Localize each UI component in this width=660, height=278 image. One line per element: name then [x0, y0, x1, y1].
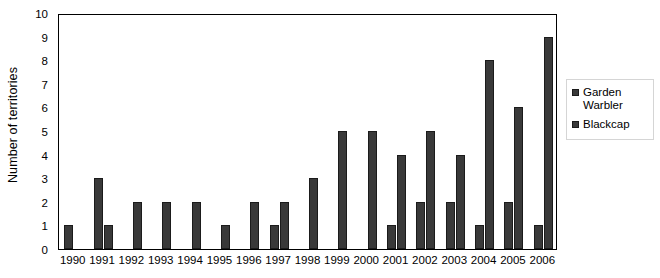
bar-group — [235, 15, 264, 249]
bar — [504, 202, 513, 249]
bar — [446, 202, 455, 249]
bar-group — [264, 15, 293, 249]
y-axis-tick-label: 2 — [42, 197, 48, 208]
x-axis-tick-label: 1994 — [177, 253, 203, 267]
bar-group — [176, 15, 205, 249]
bar-group — [294, 15, 323, 249]
y-axis-tick-labels: 012345678910 — [24, 14, 54, 250]
legend-label: Garden Warbler — [583, 86, 623, 112]
y-axis-tick-label: 4 — [42, 150, 48, 161]
bar — [416, 202, 425, 249]
x-axis-tick-label: 2000 — [353, 253, 379, 267]
bar-group — [529, 15, 558, 249]
bar — [397, 155, 406, 249]
legend-label: Blackcap — [583, 118, 630, 131]
bar — [534, 225, 543, 249]
x-axis-tick-label: 1991 — [89, 253, 115, 267]
x-axis-tick-label: 2002 — [412, 253, 438, 267]
bar-group — [118, 15, 147, 249]
bar-group — [59, 15, 88, 249]
bar — [270, 225, 279, 249]
bar — [162, 202, 171, 249]
plot-bars-container — [59, 15, 556, 249]
bar — [94, 178, 103, 249]
y-axis-tick-label: 7 — [42, 79, 48, 90]
bar-group — [88, 15, 117, 249]
bar — [64, 225, 73, 249]
x-axis-tick-label: 2004 — [471, 253, 497, 267]
legend-entry: Garden Warbler — [572, 86, 649, 112]
bar-group — [353, 15, 382, 249]
x-axis-tick-label: 1999 — [324, 253, 350, 267]
x-axis-tick-labels: 1990199119921993199419951996199719981999… — [58, 253, 557, 273]
y-axis-tick-label: 1 — [42, 221, 48, 232]
bar-group — [147, 15, 176, 249]
y-axis-tick-label: 3 — [42, 174, 48, 185]
x-axis-tick-label: 1993 — [148, 253, 174, 267]
y-axis-tick-label: 0 — [42, 245, 48, 256]
bar-group — [411, 15, 440, 249]
bar-chart: Number of territories 012345678910 19901… — [0, 0, 660, 278]
x-axis-tick-label: 2005 — [500, 253, 526, 267]
bar — [368, 131, 377, 249]
bar-group — [470, 15, 499, 249]
y-axis-title: Number of territories — [0, 0, 26, 250]
bar — [456, 155, 465, 249]
y-axis-tick-label: 8 — [42, 56, 48, 67]
chart-legend: Garden WarblerBlackcap — [566, 79, 654, 140]
y-axis-tick-label: 9 — [42, 32, 48, 43]
x-axis-tick-label: 2003 — [441, 253, 467, 267]
x-axis-tick-label: 2006 — [530, 253, 556, 267]
bar — [475, 225, 484, 249]
y-axis-tick-label: 6 — [42, 103, 48, 114]
y-axis-tick-label: 10 — [35, 9, 48, 20]
y-axis-tick-label: 5 — [42, 127, 48, 138]
bar — [514, 107, 523, 249]
bar-group — [382, 15, 411, 249]
bar — [133, 202, 142, 249]
bar — [221, 225, 230, 249]
bar — [485, 60, 494, 249]
x-axis-tick-label: 1992 — [119, 253, 145, 267]
bar-group — [206, 15, 235, 249]
bar — [104, 225, 113, 249]
bar — [192, 202, 201, 249]
x-axis-tick-label: 1998 — [295, 253, 321, 267]
legend-entry: Blackcap — [572, 118, 649, 131]
legend-swatch-icon — [572, 89, 579, 96]
y-axis-title-text: Number of territories — [6, 67, 20, 183]
bar — [387, 225, 396, 249]
plot-area — [58, 14, 557, 250]
bar — [309, 178, 318, 249]
bar — [338, 131, 347, 249]
x-axis-tick-label: 1995 — [207, 253, 233, 267]
x-axis-tick-label: 1997 — [265, 253, 291, 267]
x-axis-tick-label: 2001 — [383, 253, 409, 267]
bar — [544, 37, 553, 249]
x-axis-tick-label: 1990 — [60, 253, 86, 267]
bar-group — [441, 15, 470, 249]
bar-group — [323, 15, 352, 249]
bar-group — [499, 15, 528, 249]
bar — [250, 202, 259, 249]
legend-swatch-icon — [572, 121, 579, 128]
bar — [280, 202, 289, 249]
bar — [426, 131, 435, 249]
x-axis-tick-label: 1996 — [236, 253, 262, 267]
